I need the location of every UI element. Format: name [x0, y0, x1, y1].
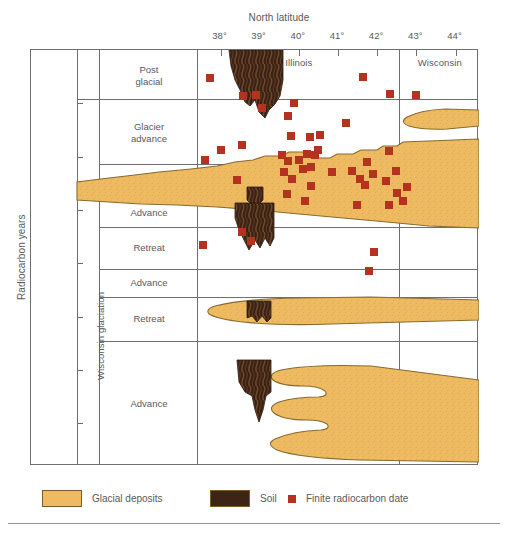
data-point: [238, 228, 246, 236]
plot-frame: Wisconsin glaciation PostglacialGlaciera…: [30, 49, 478, 465]
x-tick-label-40: 40°: [290, 30, 305, 41]
supergroup-label: Wisconsin glaciation: [95, 292, 106, 380]
x-tick-mark-39: [260, 50, 261, 56]
legend-label-soil: Soil: [260, 493, 277, 504]
data-point: [233, 176, 241, 184]
radiocarbon-date-swatch: [288, 495, 296, 503]
x-tick-mark-44: [456, 50, 457, 56]
data-point: [238, 141, 246, 149]
data-point: [288, 175, 296, 183]
x-tick-label-44: 44°: [447, 30, 462, 41]
region-label-wisconsin: Wisconsin: [418, 57, 462, 68]
data-point: [386, 90, 394, 98]
column-divider-units: [197, 50, 198, 464]
unit-label-5: Advance: [101, 277, 197, 289]
data-point: [287, 132, 295, 140]
data-point: [348, 167, 356, 175]
data-point: [353, 201, 361, 209]
column-divider-wisconsin: [399, 50, 400, 464]
data-point: [252, 91, 260, 99]
data-point: [365, 267, 373, 275]
y-tick-mark-40000: [77, 263, 83, 264]
soil-swatch: [210, 490, 250, 507]
column-divider-scale: [77, 50, 78, 464]
column-divider-supergroup: [99, 50, 100, 464]
data-point: [290, 99, 298, 107]
data-point: [284, 157, 292, 165]
data-point: [403, 183, 411, 191]
data-point: [311, 151, 319, 159]
y-tick-mark-20000: [77, 157, 83, 158]
data-point: [295, 156, 303, 164]
chart-legend: Glacial deposits Soil Finite radiocarbon…: [30, 487, 478, 513]
y-tick-mark-70000: [77, 423, 83, 424]
data-point: [303, 150, 311, 158]
data-point: [369, 170, 377, 178]
data-point: [206, 74, 214, 82]
unit-divider-5: [99, 269, 477, 270]
unit-divider-7: [99, 341, 477, 342]
x-tick-label-42: 42°: [369, 30, 384, 41]
data-point: [307, 163, 315, 171]
data-point: [328, 168, 336, 176]
data-point: [342, 119, 350, 127]
glacial-deposits-swatch: [42, 490, 82, 507]
data-point: [399, 197, 407, 205]
data-point: [361, 181, 369, 189]
y-tick-mark-60000: [77, 370, 83, 371]
data-point: [299, 165, 307, 173]
data-point: [363, 158, 371, 166]
unit-divider-1: [77, 99, 477, 100]
footer-rule: [8, 523, 500, 524]
data-point: [382, 177, 390, 185]
legend-label-glacial-deposits: Glacial deposits: [92, 493, 163, 504]
x-tick-label-39: 39°: [251, 30, 266, 41]
region-label-illinois: Illinois: [285, 57, 312, 68]
y-axis-title: Radiocarbon years: [16, 214, 27, 300]
data-point: [385, 147, 393, 155]
y-tick-mark-10000: [77, 103, 83, 104]
unit-label-7: Advance: [101, 398, 197, 410]
data-point: [307, 182, 315, 190]
unit-divider-6: [99, 297, 477, 298]
data-point: [359, 73, 367, 81]
chart-canvas: North latitude Radiocarbon years 38°39°4…: [0, 0, 508, 538]
x-tick-mark-40: [299, 50, 300, 56]
data-point: [301, 197, 309, 205]
y-tick-mark-30000: [77, 210, 83, 211]
data-point: [217, 146, 225, 154]
data-point: [392, 167, 400, 175]
x-axis-title: North latitude: [249, 12, 310, 23]
x-tick-label-43: 43°: [408, 30, 423, 41]
data-point: [306, 133, 314, 141]
data-point: [370, 248, 378, 256]
data-point: [239, 92, 247, 100]
data-point: [280, 168, 288, 176]
data-point: [247, 237, 255, 245]
x-tick-mark-43: [416, 50, 417, 56]
unit-label-3: Advance: [101, 207, 197, 219]
data-point: [283, 190, 291, 198]
x-tick-mark-38: [221, 50, 222, 56]
unit-label-0: Postglacial: [101, 64, 197, 88]
data-point: [284, 112, 292, 120]
x-tick-label-38: 38°: [212, 30, 227, 41]
unit-divider-3: [99, 199, 477, 200]
unit-label-2: Retreat: [101, 176, 197, 188]
data-point: [258, 104, 266, 112]
data-point: [385, 201, 393, 209]
legend-label-radiocarbon-date: Finite radiocarbon date: [306, 493, 408, 504]
unit-label-4: Retreat: [101, 242, 197, 254]
data-point: [393, 189, 401, 197]
data-point: [199, 241, 207, 249]
x-tick-label-41: 41°: [330, 30, 345, 41]
data-point: [201, 156, 209, 164]
y-tick-mark-50000: [77, 317, 83, 318]
x-tick-mark-42: [377, 50, 378, 56]
data-point: [316, 131, 324, 139]
x-tick-mark-41: [338, 50, 339, 56]
data-point: [412, 91, 420, 99]
unit-label-1: Glacieradvance: [101, 121, 197, 145]
unit-label-6: Retreat: [101, 313, 197, 325]
unit-divider-4: [99, 227, 477, 228]
